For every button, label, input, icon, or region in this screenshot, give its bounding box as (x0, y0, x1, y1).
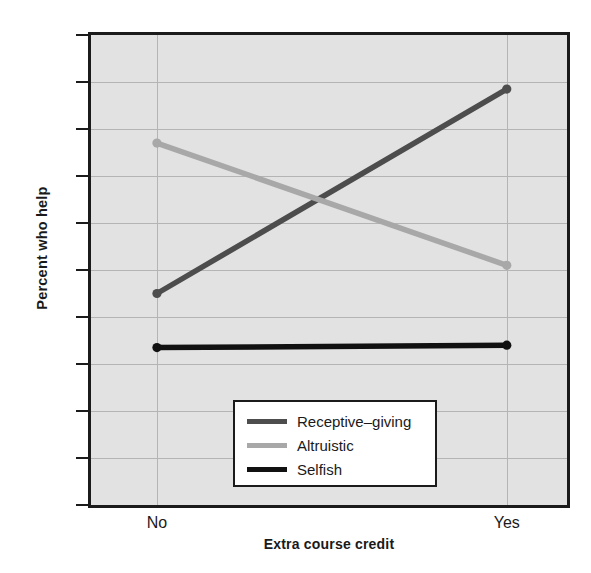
chart-figure: Percent who help Extra course credit 010… (0, 0, 591, 573)
y-tick-mark (76, 81, 88, 83)
series-receptive-giving (152, 84, 511, 298)
data-point-marker (502, 341, 511, 350)
y-axis-label: Percent who help (34, 158, 50, 338)
y-tick-mark (76, 34, 88, 36)
legend-swatch-icon (247, 443, 287, 448)
legend-label: Receptive–giving (297, 414, 411, 429)
data-point-marker (152, 139, 161, 148)
legend-item: Altruistic (247, 433, 435, 457)
y-tick-mark (76, 175, 88, 177)
y-tick-mark (76, 410, 88, 412)
legend-item: Selfish (247, 457, 435, 481)
y-tick-mark (76, 222, 88, 224)
legend: Receptive–givingAltruisticSelfish (233, 400, 437, 487)
legend-label: Altruistic (297, 438, 354, 453)
legend-swatch-icon (247, 419, 287, 424)
series-line (157, 345, 507, 347)
x-tick-label: Yes (447, 514, 567, 532)
legend-swatch-icon (247, 467, 287, 472)
y-tick-mark (76, 316, 88, 318)
data-point-marker (152, 289, 161, 298)
x-axis-label: Extra course credit (88, 536, 570, 552)
x-tick-label: No (97, 514, 217, 532)
y-tick-mark (76, 457, 88, 459)
legend-item: Receptive–giving (247, 409, 435, 433)
y-tick-mark (76, 504, 88, 506)
data-point-marker (502, 261, 511, 270)
series-selfish (152, 341, 511, 353)
data-point-marker (502, 84, 511, 93)
legend-label: Selfish (297, 462, 342, 477)
data-point-marker (152, 343, 161, 352)
y-tick-mark (76, 363, 88, 365)
series-line (157, 143, 507, 265)
y-tick-mark (76, 269, 88, 271)
series-altruistic (152, 139, 511, 270)
series-line (157, 89, 507, 293)
y-tick-mark (76, 128, 88, 130)
